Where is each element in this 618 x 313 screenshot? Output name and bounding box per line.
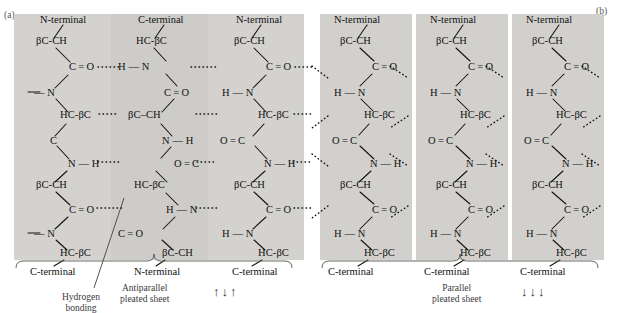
top-terminal-label: C-terminal	[138, 14, 184, 25]
atom-label: HC-βC	[364, 110, 395, 121]
parallel-arrows: ↓↓↓	[521, 285, 547, 298]
atom-label: C = O	[372, 205, 397, 216]
atom-label: C = O	[118, 229, 143, 240]
bottom-terminal-label: C-terminal	[520, 266, 566, 277]
antiparallel-caption: Antiparallel pleated sheet	[120, 283, 169, 305]
parallel-caption-line1: Parallel	[432, 283, 481, 294]
atom-label: HC-βC	[556, 248, 587, 259]
atom-label: βC-CH	[234, 180, 265, 191]
atom-label: H — N	[118, 62, 149, 73]
atom-label: HC-βC	[60, 110, 91, 121]
atom-label: H — N	[526, 88, 557, 99]
atom-label: N — H	[162, 136, 193, 147]
atom-label: βC-CH	[340, 180, 371, 191]
atom-label: βC-CH	[436, 180, 467, 191]
atom-label: O = C	[332, 136, 357, 147]
atom-label: N — H	[68, 159, 99, 170]
hydrogen-bonding-line1: Hydrogen	[62, 292, 100, 303]
top-terminal-label: N-terminal	[430, 14, 476, 25]
atom-label: C = O	[69, 62, 94, 73]
atom-label: C = O	[564, 62, 589, 73]
atom-label: H — N	[430, 229, 461, 240]
parallel-caption-line2: pleated sheet	[432, 294, 481, 305]
atom-label: H — N	[526, 229, 557, 240]
atom-label: O = C	[524, 136, 549, 147]
bottom-terminal-label: C-terminal	[424, 266, 470, 277]
antiparallel-bond-lines	[14, 14, 304, 260]
parallel-sheet-panel: N-terminalβC-CHC = OH — NHC-βCO = CN — H…	[320, 14, 610, 260]
atom-label: βC-CH	[532, 36, 563, 47]
atom-label: HC-βC	[258, 248, 289, 259]
atom-label: O = C	[428, 136, 453, 147]
hydrogen-bonding-line2: bonding	[62, 303, 100, 313]
atom-label: — N	[34, 88, 55, 99]
atom-label: C = O	[69, 205, 94, 216]
atom-label: C = O	[564, 205, 589, 216]
atom-label: βC-CH	[436, 36, 467, 47]
atom-label: HC-βC	[60, 248, 91, 259]
atom-label: βC-CH	[340, 36, 371, 47]
atom-label: N — H	[264, 159, 295, 170]
atom-label: N — H	[370, 159, 401, 170]
atom-label: βC-CH	[36, 36, 67, 47]
atom-label: C = O	[372, 62, 397, 73]
bottom-terminal-label: C-terminal	[328, 266, 374, 277]
atom-label: H — N	[334, 88, 365, 99]
atom-label: C = O	[266, 205, 291, 216]
top-terminal-label: N-terminal	[40, 14, 86, 25]
top-terminal-label: N-terminal	[334, 14, 380, 25]
atom-label: HC-βC	[556, 110, 587, 121]
atom-label: C = O	[266, 62, 291, 73]
atom-label: H — N	[334, 229, 365, 240]
antiparallel-caption-line2: pleated sheet	[120, 294, 169, 305]
atom-label: N — H	[466, 159, 497, 170]
atom-label: HC-βC	[136, 36, 167, 47]
atom-label: C	[50, 136, 57, 147]
atom-label: O = C	[174, 159, 199, 170]
atom-label: C = O	[468, 205, 493, 216]
atom-label: H — N	[222, 229, 253, 240]
atom-label: βC-CH	[36, 180, 67, 191]
atom-label: HC-βC	[258, 110, 289, 121]
atom-label: N — H	[562, 159, 593, 170]
hydrogen-bonding-label: Hydrogen bonding	[62, 292, 100, 313]
panel-a-letter: (a)	[4, 10, 15, 20]
parallel-bond-lines	[320, 14, 610, 260]
top-terminal-label: N-terminal	[236, 14, 282, 25]
bottom-terminal-label: C-terminal	[232, 266, 278, 277]
top-terminal-label: N-terminal	[526, 14, 572, 25]
atom-label: H — N	[222, 88, 253, 99]
atom-label: βC-CH	[532, 180, 563, 191]
beta-pleated-sheet-figure: (a) (b)	[0, 0, 618, 313]
atom-label: C = O	[468, 62, 493, 73]
bottom-terminal-label: C-terminal	[30, 266, 76, 277]
atom-label: HC-βC	[364, 248, 395, 259]
atom-label: O = C	[220, 136, 245, 147]
antiparallel-sheet-panel: N-terminalβC-CHC = O— NHC-βCCN — HβC-CHC…	[14, 14, 304, 260]
atom-label: — N	[34, 229, 55, 240]
bottom-terminal-label: N-terminal	[134, 266, 180, 277]
atom-label: H — N	[430, 88, 461, 99]
atom-label: βC-CH	[234, 36, 265, 47]
antiparallel-arrows: ↑↓↑	[213, 285, 239, 298]
atom-label: βC-CH	[162, 248, 193, 259]
atom-label: βC–CH	[128, 110, 161, 121]
atom-label: HC-βC	[460, 248, 491, 259]
parallel-caption: Parallel pleated sheet	[432, 283, 481, 305]
antiparallel-caption-line1: Antiparallel	[120, 283, 169, 294]
atom-label: C = O	[164, 88, 189, 99]
atom-label: HC-βC	[134, 180, 165, 191]
atom-label: H — N	[166, 205, 197, 216]
atom-label: HC-βC	[460, 110, 491, 121]
